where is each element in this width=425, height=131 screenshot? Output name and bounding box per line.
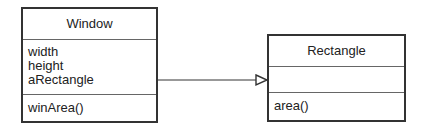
open-triangle-arrowhead-icon: [256, 75, 267, 85]
association-arrow: [0, 0, 425, 131]
